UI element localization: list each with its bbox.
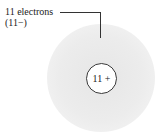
nucleus: 11 +	[86, 63, 117, 94]
leader-line-vertical	[100, 12, 101, 38]
electron-count-label: 11 electrons	[5, 7, 53, 17]
electron-charge-label: (11−)	[5, 18, 27, 28]
nucleus-charge-label: 11 +	[93, 73, 111, 84]
leader-line-horizontal	[60, 12, 101, 13]
